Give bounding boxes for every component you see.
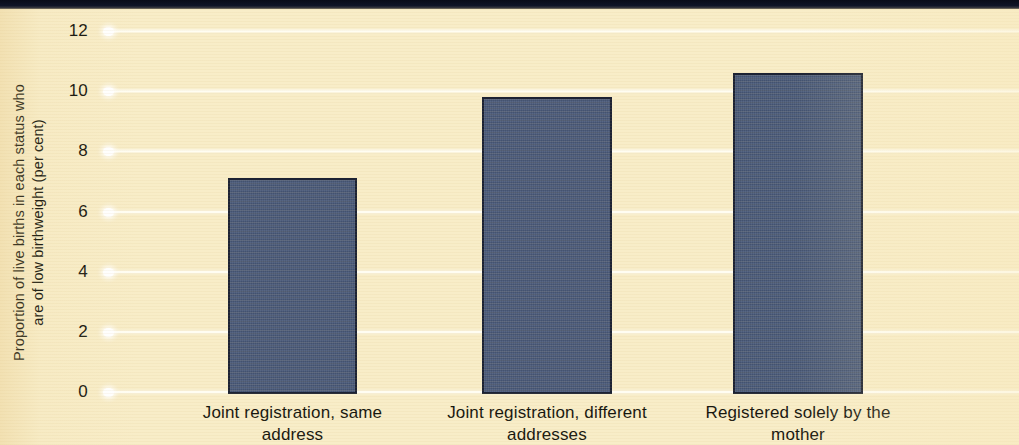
y-axis-title: Proportion of live births in each status… [0, 0, 58, 445]
y-axis-tick-dot-10 [103, 87, 114, 96]
bar-chart-figure: 024681012 Proportion of live births in e… [0, 0, 1019, 445]
y-axis-tick-dot-8 [103, 147, 114, 156]
scan-top-edge-strip [0, 0, 1019, 9]
y-axis-tick-dot-6 [103, 208, 114, 217]
bar-1 [482, 97, 612, 394]
x-axis-category-label-2: Registered solely by the mother [648, 402, 948, 445]
plot-area: 024681012 [0, 0, 1019, 445]
y-axis-tick-dot-0 [103, 388, 114, 397]
y-axis-tick-dot-2 [103, 328, 114, 337]
bar-2 [733, 73, 863, 394]
bar-0 [228, 178, 357, 394]
y-axis-tick-dot-12 [103, 27, 114, 36]
y-axis-tick-dot-4 [103, 268, 114, 277]
y-axis-title-label: Proportion of live births in each status… [10, 84, 48, 361]
gridline-10 [108, 90, 1019, 92]
gridline-12 [108, 30, 1019, 32]
